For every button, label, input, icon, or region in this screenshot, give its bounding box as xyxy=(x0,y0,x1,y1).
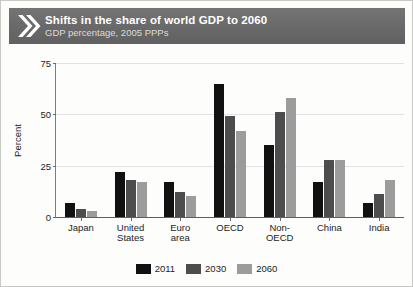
x-tick-mark xyxy=(280,217,281,221)
bar-group xyxy=(64,63,98,217)
y-tick-mark xyxy=(53,166,56,167)
bar-2011-Japan xyxy=(65,203,75,217)
legend-swatch-2030 xyxy=(186,264,201,274)
chart-header-text: Shifts in the share of world GDP to 2060… xyxy=(45,14,267,38)
chart-header-banner: Shifts in the share of world GDP to 2060… xyxy=(9,8,405,44)
legend-swatch-2060 xyxy=(237,264,252,274)
x-tick-label: United States xyxy=(117,223,144,244)
y-axis-title: Percent xyxy=(10,63,24,217)
legend-label-2030: 2030 xyxy=(205,263,226,274)
bar-2030-Japan xyxy=(76,209,86,217)
chart-figure: Shifts in the share of world GDP to 2060… xyxy=(0,0,413,287)
bar-group xyxy=(163,63,197,217)
x-tick-label: Japan xyxy=(68,223,94,233)
bar-2011-United-States xyxy=(115,172,125,217)
y-tick-mark xyxy=(53,114,56,115)
plot-area: 0255075JapanUnited StatesEuro areaOECDNo… xyxy=(55,63,404,218)
bar-2030-China xyxy=(324,160,334,217)
double-chevron-right-icon xyxy=(15,12,41,40)
y-tick-label: 0 xyxy=(46,212,51,223)
legend-item-2011[interactable]: 2011 xyxy=(136,263,175,274)
bar-2011-India xyxy=(363,203,373,217)
bar-2060-Non--OECD xyxy=(286,98,296,217)
x-tick-mark xyxy=(379,217,380,221)
chart-subtitle: GDP percentage, 2005 PPPs xyxy=(45,28,267,38)
bar-2030-India xyxy=(374,194,384,217)
y-tick-mark xyxy=(53,63,56,64)
bar-2060-Japan xyxy=(87,211,97,217)
x-tick-label: China xyxy=(317,223,342,233)
x-tick-label: Euro area xyxy=(170,223,190,244)
legend-item-2060[interactable]: 2060 xyxy=(237,263,277,274)
bar-2060-China xyxy=(335,160,345,217)
bar-2030-United-States xyxy=(126,180,136,217)
x-tick-mark xyxy=(131,217,132,221)
x-tick-label: India xyxy=(369,223,390,233)
y-tick-label: 50 xyxy=(40,109,51,120)
bar-2060-OECD xyxy=(236,131,246,217)
bar-2060-United-States xyxy=(137,182,147,217)
y-tick-mark xyxy=(53,217,56,218)
legend-label-2011: 2011 xyxy=(155,263,175,274)
bar-2030-Euro-area xyxy=(175,192,185,217)
bar-group xyxy=(114,63,148,217)
x-tick-label: OECD xyxy=(216,223,243,233)
bar-2011-Euro-area xyxy=(164,182,174,217)
bar-2011-OECD xyxy=(214,84,224,217)
x-tick-mark xyxy=(329,217,330,221)
x-tick-mark xyxy=(230,217,231,221)
y-tick-label: 25 xyxy=(40,160,51,171)
legend-label-2060: 2060 xyxy=(256,263,277,274)
bar-group xyxy=(362,63,396,217)
bar-group xyxy=(312,63,346,217)
y-tick-label: 75 xyxy=(40,58,51,69)
bar-2060-India xyxy=(385,180,395,217)
legend-item-2030[interactable]: 2030 xyxy=(186,263,226,274)
bar-2030-Non--OECD xyxy=(275,112,285,217)
bar-group xyxy=(263,63,297,217)
bar-group xyxy=(213,63,247,217)
x-tick-label: Non- OECD xyxy=(266,223,293,244)
bar-2060-Euro-area xyxy=(186,196,196,217)
chart-title: Shifts in the share of world GDP to 2060 xyxy=(45,14,267,26)
y-axis-title-label: Percent xyxy=(12,124,23,157)
bar-2030-OECD xyxy=(225,116,235,217)
x-tick-mark xyxy=(180,217,181,221)
legend-swatch-2011 xyxy=(136,264,151,274)
bar-2011-China xyxy=(313,182,323,217)
bar-2011-Non--OECD xyxy=(264,145,274,217)
x-tick-mark xyxy=(81,217,82,221)
chart-legend: 201120302060 xyxy=(1,263,412,274)
